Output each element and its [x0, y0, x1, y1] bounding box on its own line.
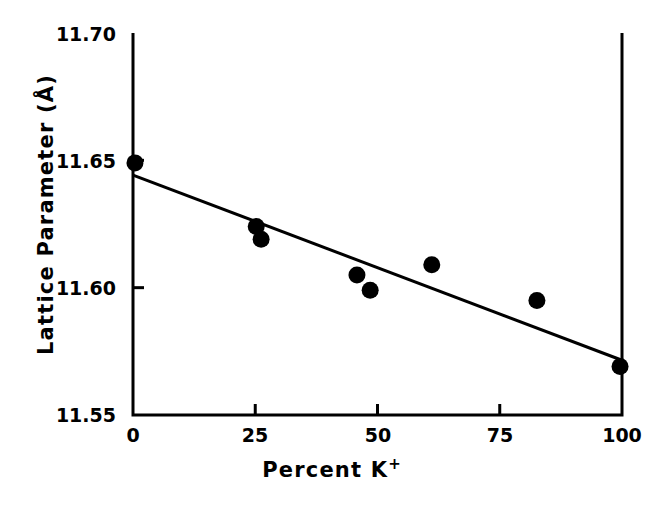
data-point — [126, 154, 143, 171]
data-point — [423, 256, 440, 273]
fit-line — [133, 175, 622, 360]
data-point — [612, 358, 629, 375]
data-point — [362, 282, 379, 299]
data-points — [126, 154, 628, 375]
data-point — [528, 292, 545, 309]
axis-frame — [133, 33, 622, 415]
axis-ticks — [133, 160, 500, 415]
chart-figure: Lattice Parameter (Å) Percent K+ 11.70 1… — [0, 0, 663, 515]
data-point — [253, 231, 270, 248]
fit-line-segment — [133, 175, 622, 360]
plot-area — [0, 0, 663, 515]
data-point — [348, 266, 365, 283]
